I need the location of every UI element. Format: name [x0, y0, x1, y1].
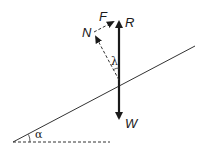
label-N: N	[82, 26, 91, 39]
alpha-arc	[29, 135, 31, 143]
label-lambda: λ	[111, 56, 118, 67]
label-R: R	[125, 16, 134, 29]
force-diagram: N F R W λ α	[0, 0, 205, 150]
label-W: W	[125, 117, 137, 130]
label-alpha: α	[35, 129, 42, 140]
label-F: F	[99, 10, 107, 23]
